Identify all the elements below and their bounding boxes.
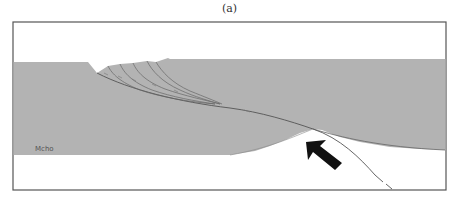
crust-layer bbox=[14, 58, 446, 155]
cross-section-diagram: Mcho bbox=[0, 0, 459, 207]
moho-label: Mcho bbox=[35, 145, 54, 153]
